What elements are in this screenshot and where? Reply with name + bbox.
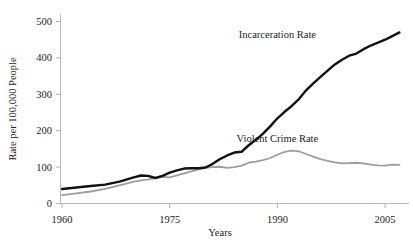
y-tick-label-300: 300 <box>36 89 52 100</box>
y-tick-label-500: 500 <box>36 16 52 27</box>
y-axis-ticks <box>56 22 61 204</box>
line-chart: 0 100 200 300 400 500 1960 1975 1990 200… <box>0 0 413 243</box>
series-label-violent-crime-rate: Violent Crime Rate <box>237 133 319 144</box>
y-tick-label-100: 100 <box>36 162 52 173</box>
chart-figure: 0 100 200 300 400 500 1960 1975 1990 200… <box>0 0 413 243</box>
x-tick-label-1960: 1960 <box>52 214 73 225</box>
y-tick-label-400: 400 <box>36 52 52 63</box>
x-axis-ticks <box>62 204 385 209</box>
y-axis-title: Rate per 100,000 People <box>7 57 18 161</box>
x-tick-label-2005: 2005 <box>375 214 396 225</box>
x-tick-label-1975: 1975 <box>159 214 180 225</box>
series-line-violent-crime-rate <box>62 151 399 195</box>
x-tick-label-1990: 1990 <box>267 214 288 225</box>
x-axis-title: Years <box>208 227 231 238</box>
y-tick-label-0: 0 <box>47 198 52 209</box>
series-line-incarceration-rate <box>62 32 399 189</box>
series-label-incarceration-rate: Incarceration Rate <box>239 29 317 40</box>
y-tick-label-200: 200 <box>36 125 52 136</box>
